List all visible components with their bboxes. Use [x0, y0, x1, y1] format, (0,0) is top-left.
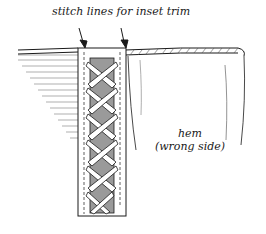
callout-arrows — [79, 28, 128, 48]
fabric-left-panel — [18, 55, 78, 138]
fabric-right-panel — [128, 56, 245, 150]
garment-illustration — [0, 0, 266, 234]
